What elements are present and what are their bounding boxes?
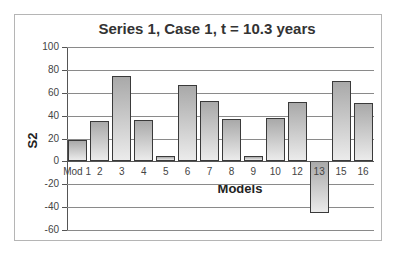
x-tick-label: 2: [89, 166, 111, 177]
bar-7: [200, 101, 219, 161]
x-tick-label: 16: [352, 166, 374, 177]
y-tick-label: 60: [25, 87, 59, 98]
y-tick-mark: [62, 47, 67, 48]
x-tick-label: 4: [133, 166, 155, 177]
y-tick-mark: [62, 184, 67, 185]
gridline: [67, 230, 374, 231]
gridline: [67, 70, 374, 71]
bar-10: [266, 118, 285, 161]
plot-area: 100806040200-20-40-60Mod 123456789101213…: [67, 47, 374, 230]
bar-15: [332, 81, 351, 161]
y-tick-label: 0: [25, 155, 59, 166]
y-tick-mark: [62, 207, 67, 208]
y-tick-mark: [62, 70, 67, 71]
bar-12: [288, 102, 307, 161]
x-tick-label: 5: [155, 166, 177, 177]
x-tick-label: 10: [264, 166, 286, 177]
bar-16: [354, 103, 373, 161]
y-tick-label: -60: [25, 224, 59, 235]
bar-8: [222, 119, 241, 161]
y-tick-label: -40: [25, 201, 59, 212]
y-tick-label: 40: [25, 110, 59, 121]
y-tick-mark: [62, 93, 67, 94]
x-tick-label: 3: [111, 166, 133, 177]
y-tick-label: 100: [25, 41, 59, 52]
bar-2: [90, 121, 109, 161]
x-tick-label: 15: [330, 166, 352, 177]
y-tick-mark: [62, 116, 67, 117]
y-tick-mark: [62, 139, 67, 140]
bar-4: [134, 120, 153, 161]
x-tick-label: 7: [199, 166, 221, 177]
gridline: [67, 47, 374, 48]
bar-3: [112, 76, 131, 161]
y-tick-label: 80: [25, 64, 59, 75]
y-tick-label: 20: [25, 133, 59, 144]
x-tick-label: 12: [286, 166, 308, 177]
x-tick-label: 6: [177, 166, 199, 177]
x-tick-label: 8: [220, 166, 242, 177]
x-axis-line: [67, 161, 374, 162]
x-tick-label: Mod 1: [51, 166, 91, 177]
y-tick-label: -20: [25, 178, 59, 189]
bar-mod-1: [68, 140, 87, 161]
chart-title: Series 1, Case 1, t = 10.3 years: [0, 20, 394, 37]
y-tick-mark: [62, 230, 67, 231]
bar-6: [178, 85, 197, 161]
x-tick-label: 9: [242, 166, 264, 177]
x-tick-label: 13: [308, 166, 330, 177]
